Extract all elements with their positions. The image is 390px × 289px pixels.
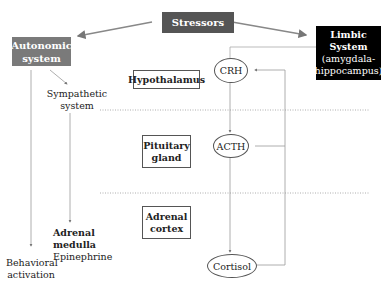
adrenal-cortex-label-1: Adrenal (146, 211, 188, 223)
hypothalamus-label: Hypothalamus (128, 74, 205, 86)
stressors-label: Stressors (172, 16, 224, 29)
limbic-label-3: (amygdala- (322, 53, 375, 65)
behavioral-label-1: Behavioral (6, 257, 56, 269)
acth-node: ACTH (213, 134, 249, 158)
sympathetic-label-1: Sympathetic (44, 88, 110, 100)
acth-label: ACTH (217, 141, 246, 152)
adrenal-cortex-label-2: cortex (150, 223, 183, 235)
crh-label: CRH (220, 65, 243, 76)
autonomic-system-box: Autonomic system (12, 37, 71, 66)
behavioral-label-2: activation (6, 269, 56, 281)
adrenal-medulla-label-1: Adrenal (53, 227, 112, 239)
limbic-label-1: Limbic (330, 29, 366, 41)
autonomic-label-2: system (22, 52, 61, 65)
pituitary-gland-box: Pituitary gland (142, 135, 191, 168)
hypothalamus-box: Hypothalamus (133, 70, 200, 89)
pituitary-label-1: Pituitary (143, 140, 190, 152)
pituitary-label-2: gland (152, 152, 182, 164)
crh-node: CRH (214, 58, 248, 83)
adrenal-medulla-label-2: medulla (53, 239, 112, 251)
sympathetic-system-label: Sympathetic system (44, 88, 110, 112)
adrenal-cortex-box: Adrenal cortex (142, 206, 191, 239)
limbic-system-box: Limbic System (amygdala- hippocampus) (316, 26, 381, 80)
autonomic-label-1: Autonomic (11, 39, 72, 52)
cortisol-label: Cortisol (213, 261, 251, 272)
behavioral-activation-label: Behavioral activation (6, 257, 56, 281)
limbic-label-4: hippocampus) (315, 65, 383, 77)
stressors-box: Stressors (162, 12, 234, 33)
epinephrine-label: Epinephrine (53, 251, 112, 263)
adrenal-medulla-label: Adrenal medulla Epinephrine (53, 227, 112, 263)
cortisol-node: Cortisol (207, 254, 257, 278)
sympathetic-label-2: system (44, 100, 110, 112)
limbic-label-2: System (329, 41, 367, 53)
